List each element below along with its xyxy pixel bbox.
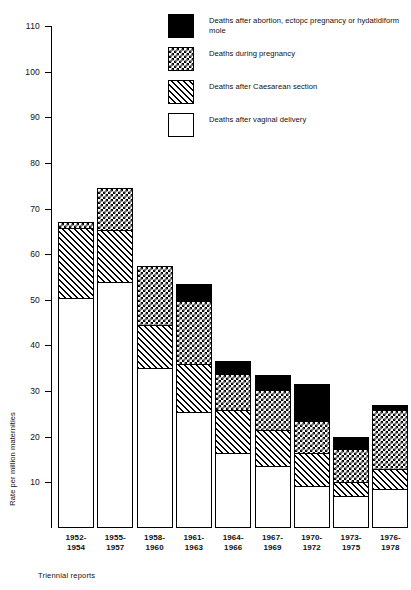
bar-segment-vaginal (334, 496, 368, 527)
x-axis-label-line: 1961- (172, 533, 216, 543)
solid-black-swatch (168, 14, 194, 38)
bar-segment-pregnancy (138, 267, 172, 326)
legend-item: Deaths after abortion, ectopc pregnancy … (168, 14, 408, 38)
y-axis-tick-label: 100 (14, 68, 40, 77)
x-axis-label-line: 1973- (329, 533, 373, 543)
checkerboard-swatch (168, 47, 194, 71)
bar (294, 384, 330, 528)
x-axis-label-line: 1963 (172, 543, 216, 553)
bar-segment-caesarean (295, 453, 329, 487)
bar (215, 361, 251, 528)
x-axis-label-line: 1970- (290, 533, 334, 543)
x-axis-label-line: 1958- (133, 533, 177, 543)
bar (255, 375, 291, 528)
legend-item: Deaths during pregnancy (168, 47, 408, 71)
x-axis-label-line: 1967- (251, 533, 295, 543)
bar-segment-pregnancy (256, 390, 290, 431)
bar-segment-abortion (177, 285, 211, 301)
x-axis-label-line: 1952- (54, 533, 98, 543)
y-axis-tick (45, 209, 51, 210)
bar (137, 266, 173, 528)
x-axis-label: 1976-1978 (368, 533, 411, 553)
y-axis-line (51, 26, 52, 528)
y-axis-tick (45, 482, 51, 483)
bar (333, 437, 369, 528)
y-axis-tick (45, 345, 51, 346)
legend-item: Deaths after Caesarean section (168, 80, 408, 104)
y-axis-tick-label: 60 (14, 250, 40, 259)
y-axis-tick-label: 10 (14, 478, 40, 487)
y-axis-tick-label: 70 (14, 205, 40, 214)
maternal-mortality-stacked-bar-chart: 110100908070605040302010 Rate per millio… (0, 0, 411, 590)
x-axis-label-line: 1969 (251, 543, 295, 553)
x-axis-label-line: 1957 (93, 543, 137, 553)
bar-segment-pregnancy (334, 449, 368, 482)
bar-segment-vaginal (373, 489, 407, 527)
bar (58, 222, 94, 528)
x-axis-label: 1973-1975 (329, 533, 373, 553)
bar-segment-vaginal (177, 412, 211, 527)
x-axis-caption: Triennial reports (38, 571, 95, 580)
y-axis-title: Rate per million maternities (9, 394, 17, 524)
bar-segment-caesarean (334, 482, 368, 495)
y-axis-tick-label: 90 (14, 113, 40, 122)
x-axis-label-line: 1976- (368, 533, 411, 543)
x-axis-label: 1952-1954 (54, 533, 98, 553)
legend-item-label: Deaths after Caesarean section (209, 80, 317, 92)
bar-segment-abortion (295, 385, 329, 421)
y-axis-tick-label: 110 (14, 22, 40, 31)
bar-segment-abortion (256, 376, 290, 390)
bar-segment-caesarean (138, 325, 172, 368)
x-axis-label-line: 1954 (54, 543, 98, 553)
bar-segment-caesarean (98, 230, 132, 282)
bar (176, 284, 212, 528)
y-axis-tick-label: 40 (14, 341, 40, 350)
y-axis-tick-label: 80 (14, 159, 40, 168)
bar-segment-vaginal (59, 298, 93, 527)
bar-segment-pregnancy (373, 410, 407, 468)
bar-segment-pregnancy (177, 301, 211, 364)
legend-item-label: Deaths during pregnancy (209, 47, 295, 59)
bar-segment-caesarean (216, 410, 250, 453)
legend-item-label: Deaths after abortion, ectopc pregnancy … (209, 14, 408, 35)
bar-segment-vaginal (256, 466, 290, 527)
bar (97, 188, 133, 528)
bar-segment-abortion (334, 438, 368, 449)
y-axis-tick (45, 72, 51, 73)
y-axis-tick (45, 26, 51, 27)
x-axis-label-line: 1955- (93, 533, 137, 543)
x-axis-label: 1955-1957 (93, 533, 137, 553)
x-axis-label: 1961-1963 (172, 533, 216, 553)
x-axis-label-line: 1978 (368, 543, 411, 553)
bar-segment-vaginal (216, 453, 250, 527)
bar-segment-caesarean (256, 430, 290, 466)
y-axis-tick (45, 254, 51, 255)
y-axis-tick (45, 163, 51, 164)
x-axis-label: 1964-1966 (211, 533, 255, 553)
bar-segment-pregnancy (295, 421, 329, 453)
y-axis-tick (45, 437, 51, 438)
bar-segment-caesarean (177, 364, 211, 412)
white-swatch (168, 113, 194, 137)
y-axis-tick-label: 50 (14, 296, 40, 305)
y-axis-tick (45, 117, 51, 118)
bar-segment-vaginal (138, 368, 172, 527)
y-axis-tick-label: 30 (14, 387, 40, 396)
x-axis-label-line: 1966 (211, 543, 255, 553)
bar-segment-caesarean (373, 469, 407, 489)
y-axis-tick (45, 300, 51, 301)
y-axis-tick (45, 391, 51, 392)
x-axis-label: 1970-1972 (290, 533, 334, 553)
chart-legend: Deaths after abortion, ectopc pregnancy … (168, 14, 408, 146)
x-axis-label: 1958-1960 (133, 533, 177, 553)
x-axis-label-line: 1975 (329, 543, 373, 553)
x-axis-label: 1967-1969 (251, 533, 295, 553)
bar-segment-vaginal (98, 282, 132, 527)
legend-item: Deaths after vaginal delivery (168, 113, 408, 137)
bar (372, 405, 408, 528)
bar-segment-caesarean (59, 228, 93, 298)
diagonal-hatch-swatch (168, 80, 194, 104)
bar-segment-pregnancy (216, 374, 250, 410)
bar-segment-pregnancy (98, 189, 132, 230)
bar-segment-abortion (216, 362, 250, 373)
